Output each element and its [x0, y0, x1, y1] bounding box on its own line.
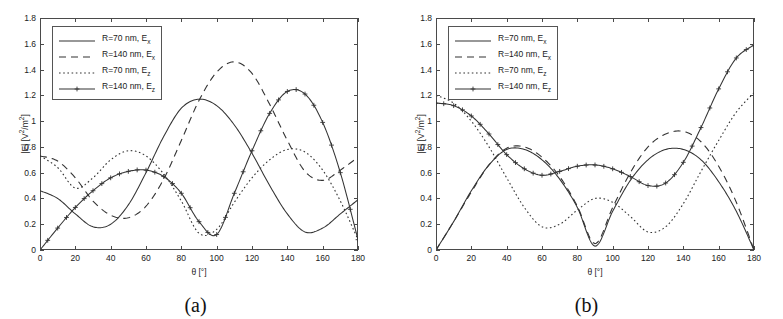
- y-tick-label: 1.6: [420, 39, 432, 49]
- series-marker-plus: [436, 101, 438, 106]
- legend-label-subscript: x: [147, 38, 150, 45]
- y-tick-mark: [750, 198, 754, 199]
- x-tick-mark: [181, 18, 182, 22]
- series-marker-plus: [707, 106, 712, 111]
- legend-item: R=70 nm, Ez: [57, 63, 155, 79]
- y-tick-mark: [354, 70, 358, 71]
- y-tick-label: 0.8: [24, 142, 36, 152]
- panel-a-sublabel: (a): [184, 294, 206, 317]
- legend-label-main: R=70 nm, E: [102, 33, 147, 43]
- x-tick-mark: [146, 246, 147, 250]
- legend-line-sample: [57, 81, 97, 93]
- legend-line-sample: [57, 49, 97, 61]
- x-tick-mark: [507, 246, 508, 250]
- y-tick-mark: [436, 198, 440, 199]
- legend-label: R=140 nm, Ex: [498, 49, 551, 61]
- x-tick-label: 160: [712, 253, 726, 263]
- series-line: [40, 90, 358, 250]
- legend-line-sample: [453, 65, 493, 77]
- plot-area-b: |E| [V2/m2] θ [°] R=70 nm, ExR=140 nm, E…: [436, 18, 754, 250]
- legend-label-main: R=70 nm, E: [102, 65, 147, 75]
- x-axis-label-a: θ [°]: [191, 267, 206, 277]
- x-tick-mark: [542, 18, 543, 22]
- x-tick-label: 40: [106, 253, 115, 263]
- y-tick-label: 0.8: [420, 142, 432, 152]
- series-marker-plus: [460, 107, 465, 112]
- y-tick-label: 1.8: [420, 13, 432, 23]
- x-tick-label: 180: [747, 253, 761, 263]
- series-marker-plus: [241, 169, 246, 174]
- x-tick-label: 60: [141, 253, 150, 263]
- y-tick-label: 0.4: [420, 193, 432, 203]
- x-tick-mark: [577, 246, 578, 250]
- y-tick-mark: [750, 224, 754, 225]
- x-tick-label: 120: [641, 253, 655, 263]
- x-tick-mark: [471, 246, 472, 250]
- x-tick-mark: [111, 246, 112, 250]
- series-marker-plus: [126, 169, 131, 174]
- x-tick-mark: [146, 18, 147, 22]
- y-tick-label: 0.2: [420, 219, 432, 229]
- y-tick-label: 1.4: [420, 65, 432, 75]
- y-tick-label: 0.6: [420, 168, 432, 178]
- series-marker-plus: [250, 148, 255, 153]
- series-marker-plus: [135, 168, 140, 173]
- x-tick-mark: [323, 246, 324, 250]
- legend-item: R=140 nm, Ez: [453, 79, 551, 95]
- series-marker-plus: [329, 143, 334, 148]
- y-tick-mark: [750, 173, 754, 174]
- y-tick-mark: [354, 173, 358, 174]
- x-tick-mark: [471, 18, 472, 22]
- legend-label-main: R=140 nm, E: [498, 81, 548, 91]
- series-marker-plus: [575, 164, 580, 169]
- series-marker-plus: [716, 86, 721, 91]
- y-tick-mark: [436, 224, 440, 225]
- x-tick-mark: [358, 18, 359, 22]
- x-tick-mark: [217, 18, 218, 22]
- series-marker-plus: [646, 183, 651, 188]
- series-marker-plus: [548, 172, 553, 177]
- series-marker-plus: [593, 163, 598, 168]
- y-tick-mark: [354, 95, 358, 96]
- x-tick-label: 40: [502, 253, 511, 263]
- x-tick-label: 180: [351, 253, 365, 263]
- x-tick-mark: [507, 18, 508, 22]
- series-marker-plus: [654, 184, 659, 189]
- x-tick-label: 100: [210, 253, 224, 263]
- legend-label-subscript: z: [147, 70, 150, 77]
- x-tick-mark: [252, 246, 253, 250]
- legend-line-sample: [57, 65, 97, 77]
- series-marker-plus: [232, 191, 237, 196]
- x-tick-mark: [40, 246, 41, 250]
- x-tick-mark: [754, 246, 755, 250]
- y-tick-mark: [40, 121, 44, 122]
- legend-label-subscript: x: [548, 54, 551, 61]
- legend-label-subscript: z: [152, 86, 155, 93]
- y-tick-mark: [40, 147, 44, 148]
- legend-label-main: R=140 nm, E: [498, 49, 548, 59]
- x-tick-mark: [111, 18, 112, 22]
- y-tick-mark: [40, 70, 44, 71]
- y-tick-label: 1.6: [24, 39, 36, 49]
- x-tick-label: 100: [606, 253, 620, 263]
- x-tick-mark: [542, 246, 543, 250]
- legend-line-sample: [453, 49, 493, 61]
- series-marker-plus: [441, 101, 446, 106]
- y-tick-mark: [40, 173, 44, 174]
- series-line: [436, 131, 754, 250]
- y-tick-mark: [436, 250, 440, 251]
- x-tick-mark: [683, 246, 684, 250]
- legend-label-main: R=70 nm, E: [498, 65, 543, 75]
- y-tick-mark: [40, 44, 44, 45]
- x-tick-mark: [719, 18, 720, 22]
- legend-b: R=70 nm, ExR=140 nm, ExR=70 nm, EzR=140 …: [448, 26, 558, 100]
- y-tick-mark: [750, 121, 754, 122]
- x-tick-mark: [719, 246, 720, 250]
- y-tick-mark: [40, 224, 44, 225]
- series-marker-plus: [725, 69, 730, 74]
- legend-item: R=70 nm, Ex: [453, 31, 551, 47]
- legend-item: R=70 nm, Ez: [453, 63, 551, 79]
- legend-label: R=70 nm, Ez: [102, 65, 150, 77]
- legend-label-subscript: x: [152, 54, 155, 61]
- series-marker-plus: [531, 171, 536, 176]
